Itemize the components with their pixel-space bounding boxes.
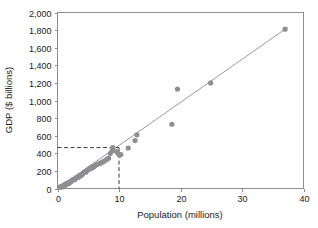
x-tick-label: 40 (299, 194, 309, 204)
data-point (110, 145, 115, 150)
y-tick-label: 1,200 (29, 79, 52, 89)
data-point (208, 80, 213, 85)
y-axis-tick-labels: 02004006008001,0001,2001,4001,6001,8002,… (29, 9, 52, 195)
y-tick-label: 1,400 (29, 61, 52, 71)
x-tick-label: 30 (237, 194, 247, 204)
chart-page: 02004006008001,0001,2001,4001,6001,8002,… (0, 0, 318, 228)
x-tick-label: 20 (176, 194, 186, 204)
y-tick-label: 800 (36, 114, 51, 124)
y-tick-label: 600 (36, 132, 51, 142)
x-axis-tick-labels: 010203040 (56, 194, 310, 204)
data-point (134, 132, 139, 137)
y-tick-label: 1,000 (29, 97, 52, 107)
y-tick-label: 1,600 (29, 44, 52, 54)
x-tick-label: 10 (114, 194, 124, 204)
x-tick-label: 0 (56, 194, 61, 204)
scatter-chart: 02004006008001,0001,2001,4001,6001,8002,… (0, 0, 318, 228)
data-point (282, 27, 287, 32)
data-point (126, 145, 131, 150)
y-axis-title: GDP ($ billions) (3, 67, 14, 133)
data-point (118, 152, 123, 157)
y-tick-label: 400 (36, 149, 51, 159)
data-point (132, 138, 137, 143)
x-axis-title: Population (millions) (137, 209, 223, 220)
y-tick-label: 200 (36, 167, 51, 177)
y-tick-label: 0 (46, 185, 51, 195)
data-point (106, 156, 111, 161)
data-point (169, 122, 174, 127)
y-tick-label: 2,000 (29, 9, 52, 19)
data-point (175, 86, 180, 91)
y-tick-label: 1,800 (29, 26, 52, 36)
